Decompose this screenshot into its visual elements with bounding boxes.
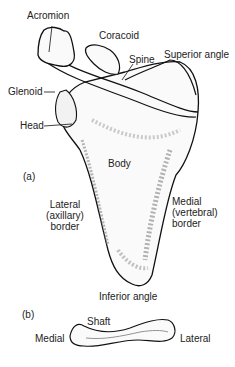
label-glenoid: Glenoid — [8, 86, 42, 97]
label-medial: Medial — [35, 333, 64, 344]
label-acromion: Acromion — [27, 10, 69, 21]
label-medial-border: Medial (vertebral) border — [172, 196, 218, 229]
label-spine: Spine — [129, 54, 155, 65]
label-lateral-border-line1: Lateral — [44, 199, 86, 210]
label-lateral-border: Lateral (axillary) border — [44, 199, 86, 232]
label-body: Body — [108, 158, 131, 169]
label-superior-angle: Superior angle — [164, 49, 229, 60]
label-medial-border-line1: Medial — [172, 196, 218, 207]
label-coracoid: Coracoid — [99, 30, 139, 41]
label-lateral-border-line2: (axillary) — [44, 210, 86, 221]
panel-label-b: (b) — [22, 309, 34, 320]
label-lateral: Lateral — [180, 333, 211, 344]
label-head: Head — [20, 120, 44, 131]
label-medial-border-line3: border — [172, 218, 218, 229]
label-medial-border-line2: (vertebral) — [172, 207, 218, 218]
label-shaft: Shaft — [87, 316, 110, 327]
label-inferior-angle: Inferior angle — [99, 291, 157, 302]
panel-label-a: (a) — [23, 171, 35, 182]
label-lateral-border-line3: border — [44, 221, 86, 232]
